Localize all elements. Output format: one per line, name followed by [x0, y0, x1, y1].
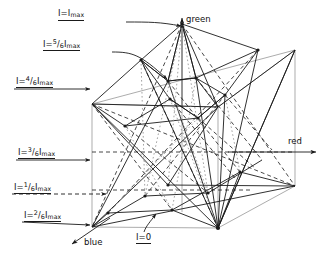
leader-lines	[12, 22, 181, 232]
figure-canvas: I=Imax I=5/6Imax I=4/6Imax I=3/6Imax I=1…	[0, 0, 322, 260]
leader-i-6-6	[126, 22, 181, 26]
label-i-2-6: I=2/6Imax	[24, 210, 61, 222]
leader-i-2-6	[22, 222, 90, 225]
axis-label-green: green	[186, 14, 211, 24]
leader-i-5-6	[112, 52, 167, 79]
label-i-4-6: I=4/6Imax	[16, 76, 53, 88]
axis-label-blue: blue	[84, 237, 102, 247]
label-i-5-6: I=5/6Imax	[43, 39, 80, 51]
leader-i-0	[144, 214, 156, 232]
label-i-1-6: I=1/6Imax	[14, 182, 51, 194]
axis-label-red: red	[288, 136, 302, 146]
label-i-3-6: I=3/6Imax	[18, 147, 55, 159]
label-i-6-6: I=Imax	[58, 9, 84, 21]
label-i-zero: I=0	[136, 232, 151, 244]
